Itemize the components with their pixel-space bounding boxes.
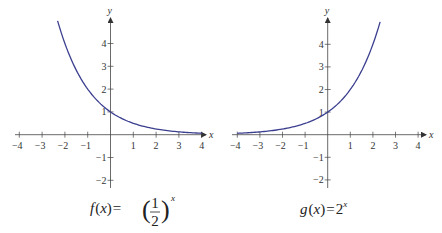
svg-text:f(x)=: f(x)= (90, 200, 121, 217)
function-curve (237, 22, 380, 133)
x-tick-label: 1 (348, 140, 353, 151)
y-tick-label: 3 (319, 61, 324, 72)
x-tick-label: 2 (370, 140, 375, 151)
x-tick-label: −3 (253, 140, 264, 151)
y-tick-label: −1 (96, 152, 107, 163)
function-caption: g(x)=2x (300, 199, 347, 218)
graph-f-half-power-x: xy−4−3−2−11234−2−11234f(x)=(12)x (12, 5, 214, 229)
y-tick-label: 4 (102, 38, 107, 49)
y-tick-label: −1 (313, 152, 324, 163)
x-tick-label: −2 (275, 140, 286, 151)
x-axis-label: x (208, 129, 214, 140)
y-axis-label: y (324, 5, 330, 16)
x-axis-label: x (428, 129, 434, 140)
svg-text:g(x)=2x: g(x)=2x (300, 199, 347, 218)
y-axis-label: y (107, 5, 113, 16)
graph-g-two-power-x: xy−4−3−2−11234−2−11234g(x)=2x (230, 5, 434, 218)
function-caption: f(x)=(12)x (90, 193, 175, 229)
svg-text:2: 2 (151, 213, 159, 229)
x-tick-label: −1 (80, 140, 91, 151)
y-tick-label: −2 (313, 174, 324, 185)
x-tick-label: −2 (58, 140, 69, 151)
svg-text:): ) (161, 195, 170, 224)
x-tick-label: 4 (416, 140, 421, 151)
x-tick-label: 2 (154, 140, 159, 151)
x-tick-label: −4 (12, 140, 23, 151)
y-tick-label: 2 (319, 84, 324, 95)
x-tick-label: −3 (35, 140, 46, 151)
y-tick-label: −2 (96, 175, 107, 186)
x-tick-label: 1 (131, 140, 136, 151)
svg-text:x: x (170, 193, 175, 203)
exponential-graphs: xy−4−3−2−11234−2−11234f(x)=(12)x xy−4−3−… (0, 0, 442, 233)
x-tick-label: 3 (176, 140, 181, 151)
function-curve (58, 21, 202, 133)
y-tick-label: 2 (102, 84, 107, 95)
x-tick-label: 3 (393, 140, 398, 151)
y-tick-label: 3 (102, 61, 107, 72)
svg-text:(: ( (142, 195, 151, 224)
x-tick-label: −4 (230, 140, 241, 151)
svg-text:1: 1 (151, 195, 159, 211)
x-tick-label: −1 (298, 140, 309, 151)
x-tick-label: 4 (199, 140, 204, 151)
y-tick-label: 4 (319, 39, 324, 50)
